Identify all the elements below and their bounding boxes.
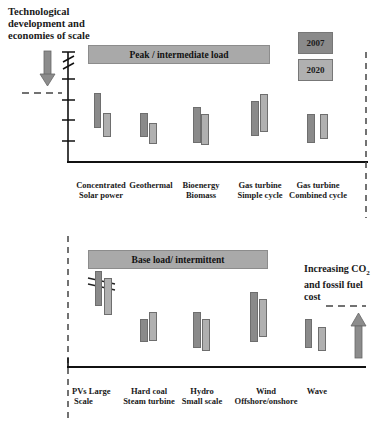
bar-bioenergy-2007	[193, 107, 201, 143]
bar-pv-2020	[104, 278, 112, 315]
bar-pv-2007	[95, 271, 102, 306]
bar-geothermal-2007	[140, 113, 148, 137]
category-pv: PVs Large Scale	[72, 386, 116, 406]
bar-hydro-2007	[193, 312, 201, 348]
category-hardcoal: Hard coal Steam turbine	[118, 386, 180, 406]
base-load-banner: Base load/ intermittent	[88, 250, 268, 269]
bar-csp-2020	[103, 113, 111, 137]
bar-geothermal-2020	[149, 123, 157, 144]
category-geothermal: Geothermal	[126, 180, 176, 190]
bar-wave-2007	[305, 319, 312, 348]
category-wave: Wave	[302, 386, 332, 396]
category-gas-combined: Gas turbine Combined cycle	[288, 180, 348, 200]
bar-gas-combined-2020	[320, 114, 328, 139]
up-arrow-icon	[351, 313, 366, 358]
bar-csp-2007	[94, 93, 101, 128]
peak-load-banner: Peak / intermediate load	[88, 45, 270, 64]
bar-wind-2020	[259, 299, 267, 337]
bar-gas-simple-2020	[260, 94, 268, 132]
bar-hydro-2020	[202, 319, 210, 351]
bar-bioenergy-2020	[201, 114, 209, 145]
bar-hardcoal-2007	[140, 319, 148, 342]
legend-2007: 2007	[298, 32, 333, 54]
category-gas-simple: Gas turbine Simple cycle	[232, 180, 288, 200]
bar-gas-simple-2007	[251, 101, 259, 136]
co2-cost-note: Increasing CO2 and fossil fuel cost	[304, 263, 374, 303]
bar-wave-2020	[318, 327, 326, 351]
bar-wind-2007	[250, 292, 258, 342]
legend-2020: 2020	[298, 59, 333, 81]
bar-hardcoal-2020	[149, 312, 157, 341]
category-csp: Concentrated Solar power	[70, 180, 132, 200]
bar-gas-combined-2007	[307, 114, 315, 143]
category-wind: Wind Offshore/onshore	[230, 386, 302, 406]
down-arrow-icon	[40, 51, 55, 86]
category-bioenergy: Bioenergy Biomass	[176, 180, 226, 200]
category-hydro: Hydro Small scale	[176, 386, 228, 406]
